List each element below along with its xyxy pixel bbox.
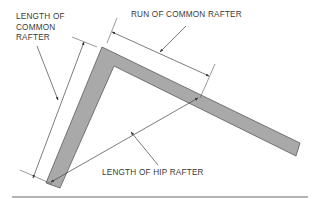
rafter-shape <box>46 47 300 188</box>
label-line: COMMON <box>16 23 65 34</box>
label-line: RAFTER <box>16 33 65 44</box>
label-line: LENGTH OF <box>16 12 65 23</box>
label-common-rafter-run: RUN OF COMMON RAFTER <box>131 10 242 21</box>
label-common-rafter-length: LENGTH OF COMMON RAFTER <box>16 12 65 44</box>
label-hip-rafter-length: LENGTH OF HIP RAFTER <box>102 168 204 179</box>
